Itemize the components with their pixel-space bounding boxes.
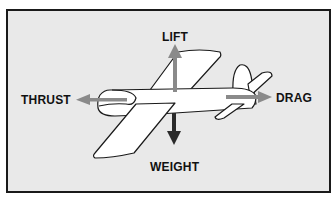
- lift-label: LIFT: [162, 31, 188, 43]
- drag-label: DRAG: [276, 92, 312, 104]
- weight-label: WEIGHT: [150, 161, 199, 173]
- weight-arrow: [167, 113, 181, 145]
- upper-wing: [150, 50, 221, 90]
- thrust-label: THRUST: [21, 94, 71, 106]
